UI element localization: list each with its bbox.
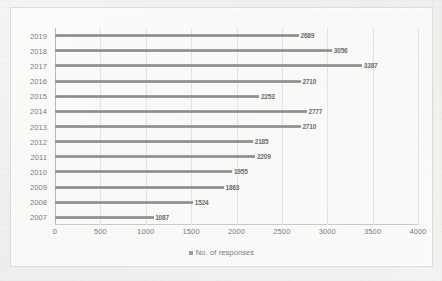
bar-row[interactable]: 1955 [55,166,418,178]
bar-value-label: 2710 [302,123,316,130]
bar[interactable] [55,186,224,189]
y-axis-category-label: 2007 [30,213,47,222]
bar[interactable] [55,49,332,52]
bar-value-label: 2209 [257,153,271,160]
bar-row[interactable]: 2209 [55,151,418,163]
bar-value-label: 2777 [309,107,323,114]
bar[interactable] [55,95,259,98]
legend-label: No. of responses [196,248,254,257]
bar[interactable] [55,80,301,83]
x-axis-tick-label: 2500 [273,227,290,236]
y-axis-category-label: 2011 [30,152,47,161]
bar-value-label: 2185 [255,138,269,145]
y-axis-category-label: 2016 [30,77,47,86]
bar-value-label: 2689 [301,32,315,39]
bar-value-label: 1087 [155,213,169,220]
bar-row[interactable]: 2253 [55,90,418,102]
y-axis-category-labels: 2019201820172016201520142013201220112010… [11,28,51,225]
bar-row[interactable]: 2689 [55,30,418,42]
y-axis-category-label: 2010 [30,167,47,176]
y-axis-category-label: 2009 [30,183,47,192]
x-axis-tick-label: 3500 [364,227,381,236]
legend-square-marker-icon [189,251,193,255]
x-axis-tick-label: 4000 [409,227,426,236]
bar-value-label: 1863 [226,183,240,190]
x-axis-tick-label: 3000 [319,227,336,236]
bar[interactable] [55,140,253,143]
bar-row[interactable]: 2777 [55,105,418,117]
bar-row[interactable]: 2185 [55,136,418,148]
y-axis-category-label: 2018 [30,46,47,55]
bar-row[interactable]: 3387 [55,60,418,72]
bar[interactable] [55,155,255,158]
y-axis-category-label: 2008 [30,198,47,207]
y-axis-category-label: 2015 [30,92,47,101]
bar[interactable] [55,64,362,67]
y-axis-category-label: 2012 [30,137,47,146]
bar-series: 2689305633872710225327772710218522091955… [55,28,418,225]
bar-row[interactable]: 1863 [55,181,418,193]
bar-row[interactable]: 2710 [55,121,418,133]
bar-value-label: 1955 [234,168,248,175]
y-axis-category-label: 2017 [30,61,47,70]
chart-legend: No. of responses [11,248,432,257]
gridline [418,28,419,225]
bar-value-label: 1524 [195,198,209,205]
y-axis-category-label: 2019 [30,31,47,40]
bar-value-label: 2253 [261,92,275,99]
y-axis-category-label: 2013 [30,122,47,131]
x-axis-tick-label: 0 [53,227,57,236]
x-axis-tick-label: 2000 [228,227,245,236]
bar[interactable] [55,201,193,204]
bar-row[interactable]: 3056 [55,45,418,57]
bar[interactable] [55,216,154,219]
plot-area: 2689305633872710225327772710218522091955… [55,28,418,225]
chart-frame: 2019201820172016201520142013201220112010… [10,7,433,267]
bar-row[interactable]: 1524 [55,196,418,208]
bar-row[interactable]: 2710 [55,75,418,87]
bar-value-label: 3056 [334,47,348,54]
x-axis-tick-label: 1500 [183,227,200,236]
bar[interactable] [55,170,232,173]
y-axis-category-label: 2014 [30,107,47,116]
x-axis-tick-label: 1000 [137,227,154,236]
bar-value-label: 2710 [302,77,316,84]
bar[interactable] [55,34,299,37]
bar-row[interactable]: 1087 [55,211,418,223]
x-axis-tick-label: 500 [94,227,107,236]
bar[interactable] [55,125,301,128]
bar[interactable] [55,110,307,113]
bar-value-label: 3387 [364,62,378,69]
x-axis-tick-labels: 05001000150020002500300035004000 [55,227,418,241]
